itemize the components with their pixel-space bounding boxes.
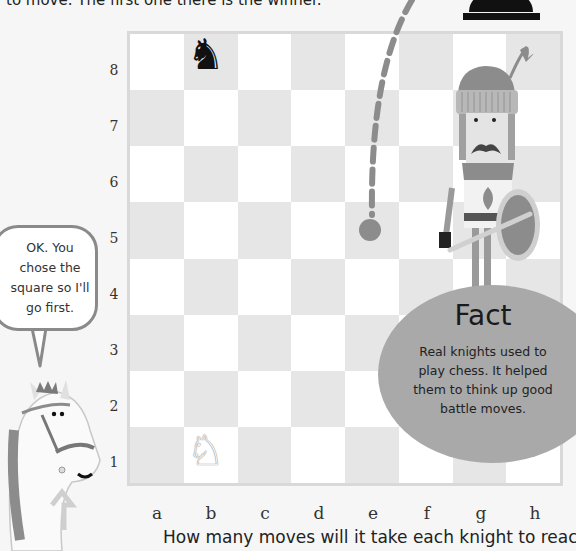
fact-line: them to think up good — [390, 380, 576, 399]
square-c6[interactable] — [238, 146, 292, 202]
rank-label-2: 2 — [104, 398, 124, 414]
square-d2[interactable] — [291, 371, 345, 427]
speech-line: chose the — [11, 258, 90, 278]
square-e7[interactable] — [345, 90, 399, 146]
square-a2[interactable] — [130, 371, 184, 427]
square-d4[interactable] — [291, 259, 345, 315]
square-b2[interactable] — [184, 371, 238, 427]
square-h5[interactable] — [506, 202, 560, 258]
square-a8[interactable] — [130, 34, 184, 90]
square-c1[interactable] — [238, 427, 292, 483]
square-d8[interactable] — [291, 34, 345, 90]
fact-body: Real knights used to play chess. It help… — [390, 342, 576, 418]
square-f5[interactable] — [399, 202, 453, 258]
fact-line: battle moves. — [390, 399, 576, 418]
square-a7[interactable] — [130, 90, 184, 146]
square-d7[interactable] — [291, 90, 345, 146]
speech-line: square so I'll — [11, 278, 90, 298]
file-label-e: e — [346, 503, 400, 523]
square-h8[interactable] — [506, 34, 560, 90]
square-d3[interactable] — [291, 315, 345, 371]
square-e5[interactable] — [345, 202, 399, 258]
speech-bubble: OK. You chose the square so I'll go firs… — [0, 225, 98, 331]
square-g5[interactable] — [453, 202, 507, 258]
fact-title: Fact — [378, 299, 576, 332]
square-a1[interactable] — [130, 427, 184, 483]
rank-label-1: 1 — [104, 454, 124, 470]
file-label-c: c — [238, 503, 292, 523]
speech-text: OK. You chose the square so I'll go firs… — [11, 238, 90, 318]
square-a3[interactable] — [130, 315, 184, 371]
square-h6[interactable] — [506, 146, 560, 202]
file-label-a: a — [130, 503, 184, 523]
file-label-b: b — [184, 503, 238, 523]
square-f6[interactable] — [399, 146, 453, 202]
square-d5[interactable] — [291, 202, 345, 258]
square-e1[interactable] — [345, 427, 399, 483]
square-b5[interactable] — [184, 202, 238, 258]
black-piece-top-icon — [463, 0, 540, 22]
square-a6[interactable] — [130, 146, 184, 202]
square-c2[interactable] — [238, 371, 292, 427]
file-label-h: h — [508, 503, 562, 523]
square-b4[interactable] — [184, 259, 238, 315]
square-d1[interactable] — [291, 427, 345, 483]
square-g6[interactable] — [453, 146, 507, 202]
file-label-g: g — [454, 503, 508, 523]
square-h7[interactable] — [506, 90, 560, 146]
square-g7[interactable] — [453, 90, 507, 146]
square-c5[interactable] — [238, 202, 292, 258]
square-c8[interactable] — [238, 34, 292, 90]
square-a4[interactable] — [130, 259, 184, 315]
square-e6[interactable] — [345, 146, 399, 202]
black-knight-icon[interactable]: ♞ — [187, 34, 225, 76]
square-c7[interactable] — [238, 90, 292, 146]
speech-line: OK. You — [11, 238, 90, 258]
square-g8[interactable] — [453, 34, 507, 90]
square-a5[interactable] — [130, 202, 184, 258]
square-e8[interactable] — [345, 34, 399, 90]
horse-character-icon — [10, 380, 100, 551]
white-knight-icon[interactable]: ♘ — [187, 430, 225, 472]
file-label-d: d — [292, 503, 346, 523]
question-text: How many moves will it take each knight … — [163, 527, 576, 547]
square-b7[interactable] — [184, 90, 238, 146]
square-b3[interactable] — [184, 315, 238, 371]
square-c3[interactable] — [238, 315, 292, 371]
square-f8[interactable] — [399, 34, 453, 90]
square-c4[interactable] — [238, 259, 292, 315]
fact-line: play chess. It helped — [390, 361, 576, 380]
fact-line: Real knights used to — [390, 342, 576, 361]
file-label-f: f — [400, 503, 454, 523]
square-d6[interactable] — [291, 146, 345, 202]
square-f7[interactable] — [399, 90, 453, 146]
square-b6[interactable] — [184, 146, 238, 202]
speech-line: go first. — [11, 298, 90, 318]
